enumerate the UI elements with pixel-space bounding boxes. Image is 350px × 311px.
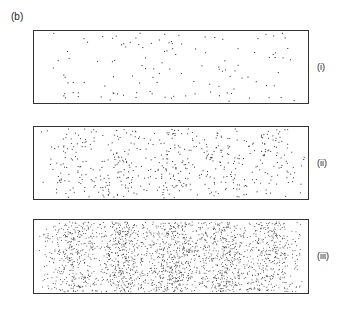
particle-hit xyxy=(199,177,200,178)
particle-hit xyxy=(131,286,132,287)
particle-hit xyxy=(169,229,170,230)
particle-hit xyxy=(78,264,79,265)
particle-hit xyxy=(126,226,127,227)
particle-hit xyxy=(297,259,298,260)
particle-hit xyxy=(219,162,220,163)
particle-hit xyxy=(123,244,124,245)
particle-hit xyxy=(199,175,200,176)
particle-hit xyxy=(129,273,130,274)
particle-hit xyxy=(218,232,219,233)
particle-hit xyxy=(121,279,122,280)
particle-hit xyxy=(228,247,229,248)
particle-hit xyxy=(214,233,215,234)
particle-hit xyxy=(92,180,93,181)
particle-hit xyxy=(281,255,282,256)
particle-hit xyxy=(219,283,220,284)
particle-hit xyxy=(178,226,179,227)
particle-hit xyxy=(232,244,233,245)
particle-hit xyxy=(92,230,93,231)
particle-hit xyxy=(218,67,219,68)
particle-hit xyxy=(172,276,173,277)
particle-hit xyxy=(209,247,210,248)
particle-hit xyxy=(81,175,82,176)
particle-hit xyxy=(217,256,218,257)
particle-hit xyxy=(65,77,66,78)
particle-hit xyxy=(224,229,225,230)
particle-hit xyxy=(192,225,193,226)
particle-hit xyxy=(163,189,164,190)
particle-hit xyxy=(154,268,155,269)
particle-hit xyxy=(55,226,56,227)
particle-hit xyxy=(133,193,134,194)
particle-hit xyxy=(96,284,97,285)
particle-hit xyxy=(266,189,267,190)
particle-hit xyxy=(176,262,177,263)
particle-hit xyxy=(128,188,129,189)
particle-hit xyxy=(137,255,138,256)
particle-hit xyxy=(261,251,262,252)
particle-hit xyxy=(157,82,158,83)
particle-hit xyxy=(224,230,225,231)
particle-hit xyxy=(126,247,127,248)
particle-hit xyxy=(39,250,40,251)
particle-hit xyxy=(119,234,120,235)
particle-hit xyxy=(270,254,271,255)
particle-hit xyxy=(104,85,105,86)
particle-hit xyxy=(194,167,195,168)
particle-hit xyxy=(186,255,187,256)
particle-hit xyxy=(289,247,290,248)
particle-hit xyxy=(79,278,80,279)
particle-hit xyxy=(185,222,186,223)
particle-hit xyxy=(66,240,67,241)
particle-hit xyxy=(118,156,119,157)
particle-hit xyxy=(144,178,145,179)
particle-hit xyxy=(89,250,90,251)
particle-hit xyxy=(84,129,85,130)
particle-hit xyxy=(266,275,267,276)
particle-hit xyxy=(135,272,136,273)
particle-hit xyxy=(122,254,123,255)
particle-hit xyxy=(41,131,42,132)
particle-hit xyxy=(160,244,161,245)
particle-hit xyxy=(190,184,191,185)
particle-hit xyxy=(180,280,181,281)
particle-hit xyxy=(282,271,283,272)
particle-hit xyxy=(165,168,166,169)
particle-hit xyxy=(118,276,119,277)
particle-hit xyxy=(181,262,182,263)
particle-hit xyxy=(112,266,113,267)
particle-hit xyxy=(276,222,277,223)
particle-hit xyxy=(220,150,221,151)
particle-hit xyxy=(45,241,46,242)
particle-hit xyxy=(169,276,170,277)
particle-hit xyxy=(127,233,128,234)
particle-hit xyxy=(241,273,242,274)
particle-hit xyxy=(170,268,171,269)
particle-hit xyxy=(277,162,278,163)
particle-hit xyxy=(84,82,85,83)
particle-hit xyxy=(152,253,153,254)
particle-hit xyxy=(82,274,83,275)
particle-hit xyxy=(189,252,190,253)
particle-hit xyxy=(187,288,188,289)
particle-hit xyxy=(179,190,180,191)
particle-hit xyxy=(151,270,152,271)
particle-hit xyxy=(164,248,165,249)
particle-hit xyxy=(197,246,198,247)
particle-hit xyxy=(109,241,110,242)
particle-hit xyxy=(151,255,152,256)
particle-hit xyxy=(128,267,129,268)
particle-hit xyxy=(186,242,187,243)
particle-hit xyxy=(219,95,220,96)
particle-hit xyxy=(203,267,204,268)
particle-hit xyxy=(179,267,180,268)
particle-hit xyxy=(210,92,211,93)
particle-hit xyxy=(191,238,192,239)
particle-hit xyxy=(228,260,229,261)
particle-hit xyxy=(275,223,276,224)
particle-hit xyxy=(128,177,129,178)
particle-hit xyxy=(145,222,146,223)
particle-hit xyxy=(232,261,233,262)
particle-hit xyxy=(240,245,241,246)
particle-hit xyxy=(163,226,164,227)
